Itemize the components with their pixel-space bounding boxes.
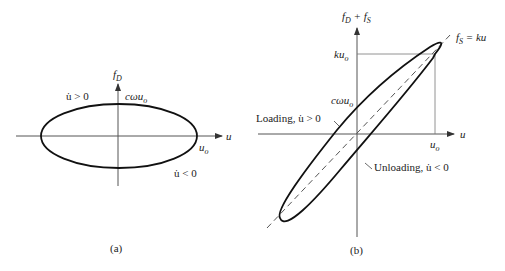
- panel-a-x-axis-label: u: [226, 130, 232, 142]
- panel-a-upper-branch-label: u̇ > 0: [66, 90, 89, 102]
- panel-a-peak-label: cωuo: [125, 90, 147, 105]
- spring-line-label: fS = ku: [456, 31, 487, 46]
- panel-b-uo-label: uo: [430, 138, 440, 153]
- panel-b-x-axis-label: u: [460, 128, 466, 140]
- loading-leader-line: [334, 121, 339, 126]
- loading-label: Loading, u̇ > 0: [256, 112, 321, 124]
- hysteresis-diagram: fD u cωuo uo u̇ > 0 u̇ < 0 (a) fD + fS u…: [0, 0, 505, 271]
- total-force-hysteresis-loop: [279, 43, 441, 222]
- panel-b-caption: (b): [350, 244, 363, 257]
- panel-a-y-axis-label: fD: [113, 68, 122, 83]
- panel-b-y-axis-label: fD + fS: [342, 10, 371, 25]
- panel-a-uo-label: uo: [199, 141, 209, 156]
- panel-b: fD + fS u fS = ku kuo cωuo uo Loading, u…: [256, 10, 487, 257]
- unloading-label: Unloading, u̇ < 0: [374, 161, 449, 173]
- panel-a-lower-branch-label: u̇ < 0: [174, 167, 197, 179]
- panel-a: fD u cωuo uo u̇ > 0 u̇ < 0 (a): [16, 68, 232, 255]
- panel-a-caption: (a): [110, 242, 123, 255]
- spring-force-line: [267, 34, 451, 228]
- unloading-leader-line: [365, 163, 372, 169]
- ku-o-label: kuo: [334, 48, 348, 63]
- panel-b-c-omega-uo-label: cωuo: [331, 94, 353, 109]
